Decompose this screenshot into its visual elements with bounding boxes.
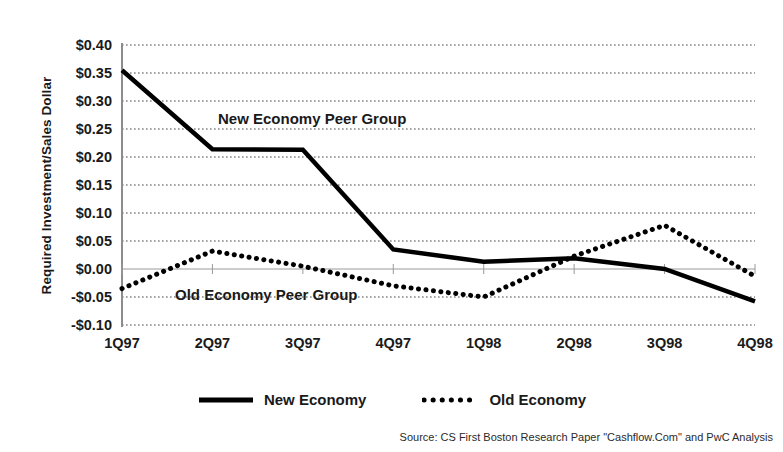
legend-label: New Economy (264, 391, 367, 408)
gridlines (122, 45, 755, 325)
chart-legend: New EconomyOld Economy (0, 391, 783, 408)
source-note: Source: CS First Boston Research Paper "… (400, 431, 773, 443)
annotation-old-economy: Old Economy Peer Group (175, 286, 358, 303)
legend-label: Old Economy (489, 391, 586, 408)
chart-figure: Required Investment/Sales Dollar $0.40$0… (0, 0, 783, 452)
annotation-new-economy: New Economy Peer Group (218, 110, 406, 127)
data-series-layer (122, 70, 755, 301)
legend-solid-line-icon (197, 393, 255, 407)
legend-item: Old Economy (422, 391, 586, 408)
legend-dotted-line-icon (422, 393, 480, 407)
plot-area (0, 0, 783, 452)
series-line (122, 70, 755, 301)
legend-item: New Economy (197, 391, 367, 408)
